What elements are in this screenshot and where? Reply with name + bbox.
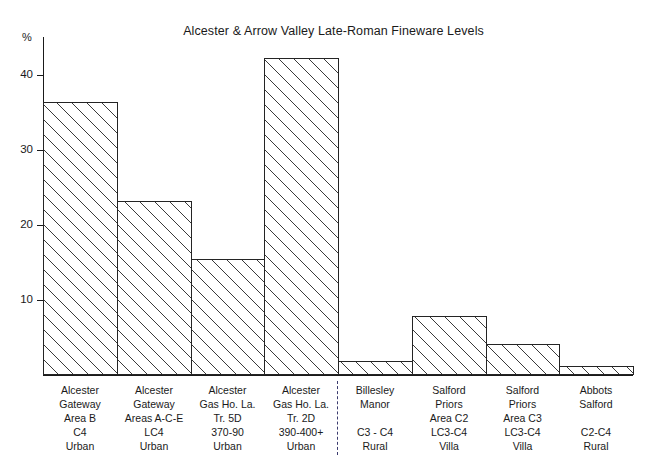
bar <box>191 259 265 375</box>
x-axis-label-line: Alcester <box>191 383 264 397</box>
x-axis-label-line: LC4 <box>117 425 191 439</box>
x-axis-label-line: Salford <box>559 397 633 411</box>
x-axis-labels: AlcesterGatewayArea BC4UrbanAlcesterGate… <box>43 383 633 463</box>
x-axis-label-line: Alcester <box>117 383 191 397</box>
x-axis-label: AlcesterGatewayArea BC4Urban <box>43 383 117 453</box>
bar <box>264 58 339 375</box>
x-axis-label-line: Villa <box>486 439 559 453</box>
x-axis-label-line: LC3-C4 <box>412 425 486 439</box>
bar <box>43 102 118 375</box>
bar <box>559 366 634 375</box>
x-axis-label: SalfordPriorsArea C2LC3-C4Villa <box>412 383 486 453</box>
y-tick-label: 20 <box>3 218 33 230</box>
x-axis-label: AlcesterGas Ho. La.Tr. 5D370-90Urban <box>191 383 264 453</box>
plot-area <box>43 37 633 375</box>
x-axis-label-line: Abbots <box>559 383 633 397</box>
x-axis-label-line: Alcester <box>43 383 117 397</box>
x-axis-label-line: Tr. 5D <box>191 411 264 425</box>
x-axis-label-line: Rural <box>559 439 633 453</box>
x-axis-label-line: C4 <box>43 425 117 439</box>
bar <box>486 344 560 375</box>
x-axis-label: BillesleyManor C3 - C4Rural <box>338 383 412 453</box>
x-axis-label-line: Salford <box>412 383 486 397</box>
y-tick-label: 40 <box>3 68 33 80</box>
y-axis-unit-label: % <box>22 31 32 43</box>
x-axis-label-line: Gas Ho. La. <box>264 397 338 411</box>
x-axis-label-line: Areas A-C-E <box>117 411 191 425</box>
y-tick-label: 30 <box>3 143 33 155</box>
x-axis-label-line: Rural <box>338 439 412 453</box>
x-axis-label: AlcesterGas Ho. La.Tr. 2D390-400+Urban <box>264 383 338 453</box>
x-axis-label-line: C2-C4 <box>559 425 633 439</box>
x-axis-label-line: Villa <box>412 439 486 453</box>
x-axis-label-line: LC3-C4 <box>486 425 559 439</box>
x-axis-label-line: Urban <box>43 439 117 453</box>
fineware-levels-bar-chart: Alcester & Arrow Valley Late-Roman Finew… <box>0 0 651 466</box>
x-axis-label: AlcesterGatewayAreas A-C-ELC4Urban <box>117 383 191 453</box>
x-axis-label-line: Urban <box>117 439 191 453</box>
x-axis-label-line: Urban <box>191 439 264 453</box>
x-axis-label-line: Area C3 <box>486 411 559 425</box>
bar <box>117 201 192 375</box>
x-axis-label-line: Tr. 2D <box>264 411 338 425</box>
x-axis-label-line: Priors <box>412 397 486 411</box>
x-axis-label-line: Gas Ho. La. <box>191 397 264 411</box>
x-axis-label-line: Alcester <box>264 383 338 397</box>
y-tick-label: 10 <box>3 293 33 305</box>
x-axis-label-line: Area C2 <box>412 411 486 425</box>
x-axis-label-line: C3 - C4 <box>338 425 412 439</box>
x-axis-label-line: Manor <box>338 397 412 411</box>
x-axis-line <box>43 375 633 376</box>
x-axis-label-line: Priors <box>486 397 559 411</box>
x-axis-label-line: Salford <box>486 383 559 397</box>
x-axis-label-line: Gateway <box>117 397 191 411</box>
bar <box>338 361 413 375</box>
x-axis-label: SalfordPriorsArea C3LC3-C4Villa <box>486 383 559 453</box>
bar <box>412 316 487 375</box>
x-axis-label-line: Urban <box>264 439 338 453</box>
x-axis-label: AbbotsSalford C2-C4Rural <box>559 383 633 453</box>
x-axis-label-line: Billesley <box>338 383 412 397</box>
chart-title-text: Alcester & Arrow Valley Late-Roman Finew… <box>183 24 484 38</box>
x-axis-label-line: Area B <box>43 411 117 425</box>
chart-title: Alcester & Arrow Valley Late-Roman Finew… <box>0 24 651 38</box>
x-axis-label-line: 370-90 <box>191 425 264 439</box>
x-axis-label-line: 390-400+ <box>264 425 338 439</box>
x-axis-label-line: Gateway <box>43 397 117 411</box>
